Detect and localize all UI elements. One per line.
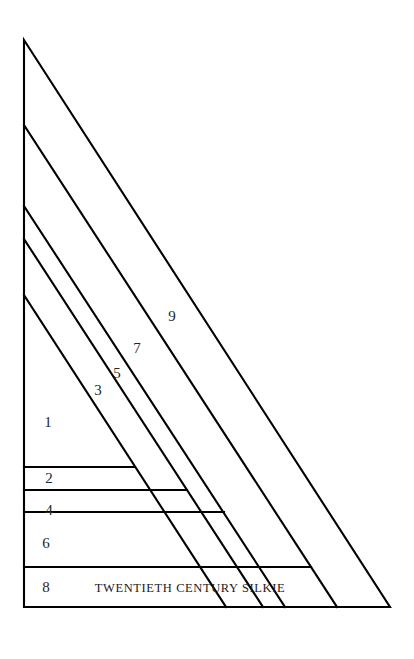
silkie-quilt-diagram: 1 2 3 4 5 6 7 8 9 TWENTIETH CENTURY SILK… [0, 0, 414, 659]
band-label-1: 1 [44, 414, 52, 430]
diagram-caption: TWENTIETH CENTURY SILKIE [95, 581, 285, 595]
band-label-7: 7 [133, 340, 141, 356]
band-label-2: 2 [45, 470, 53, 486]
band-label-3: 3 [94, 382, 102, 398]
diagram-canvas: 1 2 3 4 5 6 7 8 9 TWENTIETH CENTURY SILK… [0, 0, 414, 659]
band-label-5: 5 [113, 365, 121, 381]
band-label-6: 6 [42, 535, 50, 551]
band-label-4: 4 [45, 502, 53, 518]
band-label-8: 8 [42, 579, 50, 595]
band-label-9: 9 [168, 308, 176, 324]
